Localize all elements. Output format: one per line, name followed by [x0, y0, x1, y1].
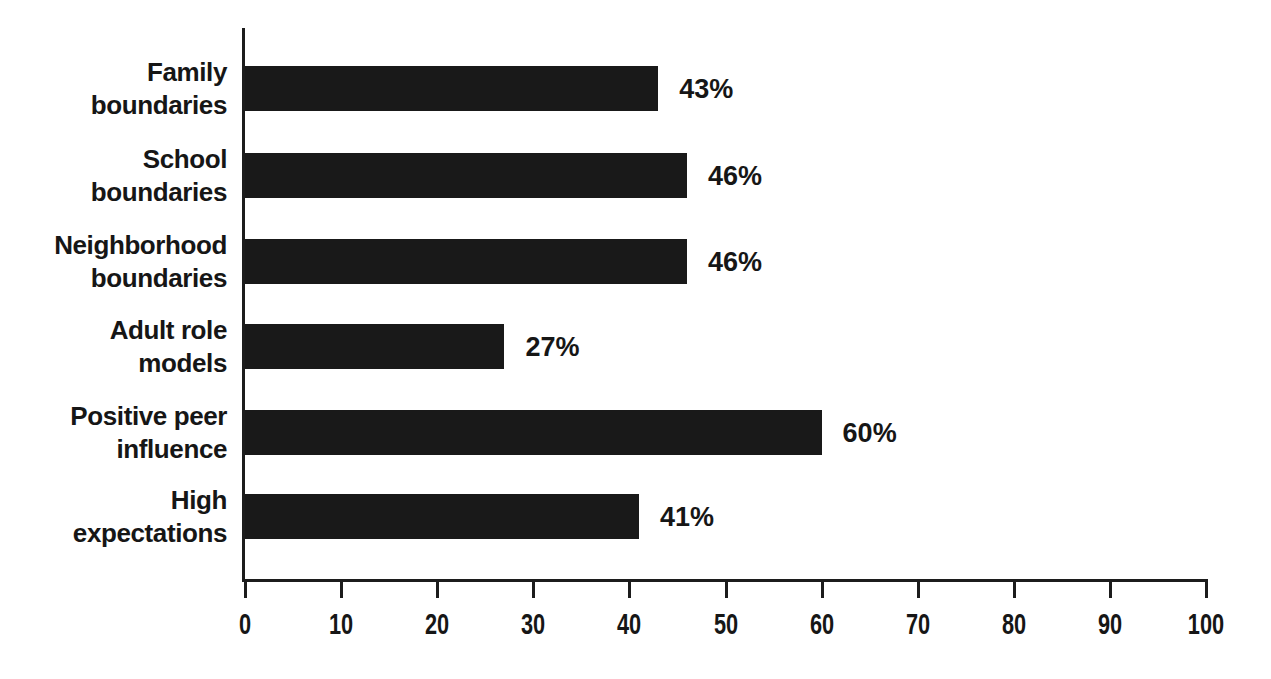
category-label-line: Adult role	[110, 314, 227, 347]
x-tick-label: 20	[425, 608, 449, 641]
value-label: 27%	[525, 331, 579, 362]
category-label: Neighborhoodboundaries	[54, 229, 227, 295]
x-tick-label: 100	[1188, 608, 1224, 641]
x-tick-label: 0	[239, 608, 251, 641]
value-label: 46%	[708, 160, 762, 191]
x-tick-mark	[340, 579, 343, 598]
x-tick-mark	[821, 579, 824, 598]
category-label: Schoolboundaries	[91, 143, 227, 209]
x-tick-mark	[532, 579, 535, 598]
category-label-line: boundaries	[91, 176, 227, 209]
value-label: 60%	[843, 417, 897, 448]
category-label: Positive peerinfluence	[70, 400, 227, 466]
x-tick-label: 40	[617, 608, 641, 641]
x-tick-label: 90	[1098, 608, 1122, 641]
category-label-line: expectations	[73, 517, 227, 550]
bar	[245, 239, 687, 284]
category-label: Familyboundaries	[91, 56, 227, 122]
bar	[245, 66, 658, 111]
x-tick-mark	[917, 579, 920, 598]
category-label-line: School	[91, 143, 227, 176]
x-tick-label: 50	[713, 608, 737, 641]
plot-area: Familyboundaries43%Schoolboundaries46%Ne…	[0, 0, 1271, 679]
value-label: 46%	[708, 246, 762, 277]
bar	[245, 494, 639, 539]
x-tick-mark	[725, 579, 728, 598]
category-label: Adult rolemodels	[110, 314, 227, 380]
category-label-line: influence	[70, 433, 227, 466]
bar	[245, 410, 822, 455]
category-label-line: boundaries	[54, 262, 227, 295]
x-tick-mark	[1013, 579, 1016, 598]
bar	[245, 324, 504, 369]
value-label: 43%	[679, 73, 733, 104]
x-tick-mark	[1205, 579, 1208, 598]
category-label-line: Neighborhood	[54, 229, 227, 262]
category-label-line: Positive peer	[70, 400, 227, 433]
x-tick-label: 80	[1002, 608, 1026, 641]
category-label: Highexpectations	[73, 484, 227, 550]
x-tick-label: 70	[906, 608, 930, 641]
x-tick-mark	[436, 579, 439, 598]
horizontal-bar-chart: Familyboundaries43%Schoolboundaries46%Ne…	[0, 0, 1271, 679]
value-label: 41%	[660, 501, 714, 532]
bar	[245, 153, 687, 198]
x-tick-label: 60	[809, 608, 833, 641]
x-tick-mark	[1109, 579, 1112, 598]
x-tick-label: 30	[521, 608, 545, 641]
x-tick-mark	[244, 579, 247, 598]
x-tick-mark	[628, 579, 631, 598]
x-tick-label: 10	[329, 608, 353, 641]
category-label-line: Family	[91, 56, 227, 89]
category-label-line: boundaries	[91, 89, 227, 122]
category-label-line: High	[73, 484, 227, 517]
category-label-line: models	[110, 347, 227, 380]
